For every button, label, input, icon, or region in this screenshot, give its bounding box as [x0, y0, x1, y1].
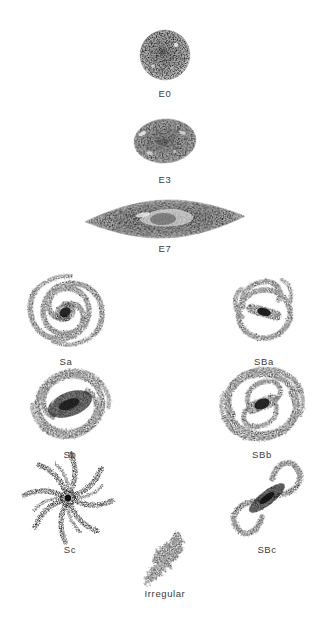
- galaxy-cell-e3: E3: [113, 112, 217, 185]
- galaxy-cell-e0: E0: [119, 28, 211, 99]
- galaxy-illustration-sbc: [209, 458, 325, 542]
- galaxy-illustration-sa: [6, 272, 126, 354]
- hubble-classification-figure: E0: [0, 0, 329, 627]
- galaxy-illustration-e3: [113, 112, 217, 170]
- galaxy-illustration-sbb: [199, 365, 325, 447]
- galaxy-label-irregular: Irregular: [145, 588, 186, 599]
- galaxy-label-e3: E3: [159, 174, 172, 185]
- galaxy-cell-irregular: Irregular: [117, 535, 213, 599]
- galaxy-illustration-sc: [8, 458, 132, 542]
- galaxy-label-e0: E0: [159, 88, 172, 99]
- galaxy-label-sbc: SBc: [257, 544, 276, 555]
- galaxy-illustration-e7: [79, 198, 251, 240]
- galaxy-cell-sbb: SBb: [199, 365, 325, 460]
- galaxy-cell-sa: Sa: [6, 272, 126, 367]
- galaxy-cell-sb: Sb: [8, 365, 132, 460]
- galaxy-illustration-e0: [119, 28, 211, 84]
- galaxy-cell-sba: SBa: [205, 272, 323, 367]
- galaxy-cell-sc: Sc: [8, 458, 132, 555]
- galaxy-illustration-irregular: [117, 535, 213, 587]
- galaxy-cell-e7: E7: [79, 198, 251, 254]
- galaxy-cell-sbc: SBc: [209, 458, 325, 555]
- galaxy-illustration-sb: [8, 365, 132, 447]
- galaxy-label-e7: E7: [159, 243, 172, 254]
- galaxy-illustration-sba: [205, 272, 323, 354]
- galaxy-label-sc: Sc: [64, 544, 76, 555]
